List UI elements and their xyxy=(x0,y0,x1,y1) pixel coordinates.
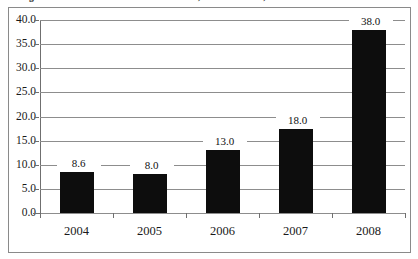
x-axis-tick-label: 2005 xyxy=(120,225,180,238)
x-axis-tick-label: 2007 xyxy=(266,225,326,238)
gridline xyxy=(40,44,405,45)
bar xyxy=(279,129,313,213)
y-axis-tick xyxy=(34,92,39,93)
bar xyxy=(352,30,386,213)
chart-title-text: Uganda: Care Seven Production in Tonnes,… xyxy=(22,0,402,2)
x-axis-tick xyxy=(113,213,114,218)
x-axis-tick xyxy=(186,213,187,218)
x-axis-tick xyxy=(332,213,333,218)
chart-figure: Uganda: Care Seven Production in Tonnes,… xyxy=(0,0,418,259)
y-axis-tick-label: 20.0 xyxy=(16,111,36,123)
bar xyxy=(206,150,240,213)
y-axis-tick-label: 35.0 xyxy=(16,38,36,50)
y-axis-tick xyxy=(34,165,39,166)
y-axis-tick xyxy=(34,44,39,45)
bar-value-label: 38.0 xyxy=(349,16,393,27)
y-axis-tick xyxy=(34,141,39,142)
x-axis-tick-label: 2006 xyxy=(193,225,253,238)
y-axis-labels: 0.05.010.015.020.025.030.035.040.0 xyxy=(6,20,36,213)
gridline xyxy=(40,213,405,214)
y-axis-tick xyxy=(34,20,39,21)
x-axis-tick-label: 2004 xyxy=(47,225,107,238)
gridline xyxy=(40,117,405,118)
x-axis-tick xyxy=(40,213,41,218)
y-axis-tick-label: 25.0 xyxy=(16,86,36,98)
gridline xyxy=(40,92,405,93)
bar-value-label: 8.0 xyxy=(130,160,174,171)
y-axis-tick xyxy=(34,68,39,69)
plot-area: 8.68.013.018.038.0 xyxy=(40,20,405,213)
x-axis-tick xyxy=(259,213,260,218)
y-axis-tick-label: 30.0 xyxy=(16,62,36,74)
x-axis-tick-label: 2008 xyxy=(339,225,399,238)
chart-title-clipped: Uganda: Care Seven Production in Tonnes,… xyxy=(0,0,418,7)
bar-value-label: 13.0 xyxy=(203,136,247,147)
y-axis-tick xyxy=(34,213,39,214)
gridline xyxy=(40,68,405,69)
bar xyxy=(133,174,167,213)
y-axis-tick xyxy=(34,189,39,190)
y-axis-tick-label: 15.0 xyxy=(16,135,36,147)
y-axis-tick xyxy=(34,117,39,118)
bar-value-label: 8.6 xyxy=(57,158,101,169)
bar xyxy=(60,172,94,213)
bar-value-label: 18.0 xyxy=(276,115,320,126)
x-axis-tick xyxy=(405,213,406,218)
y-axis-tick-label: 40.0 xyxy=(16,14,36,26)
y-axis-tick-label: 10.0 xyxy=(16,159,36,171)
